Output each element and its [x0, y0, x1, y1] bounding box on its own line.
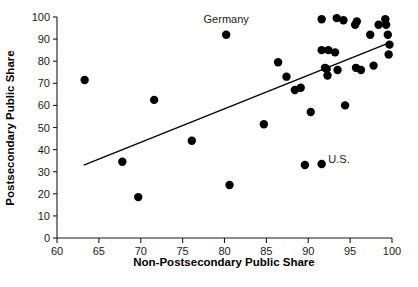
- data-point: [307, 108, 315, 116]
- annotation-label-germany: Germany: [204, 13, 250, 25]
- data-point: [150, 96, 158, 104]
- data-point: [80, 76, 88, 84]
- data-point: [297, 84, 305, 92]
- y-tick-label: 50: [38, 122, 50, 134]
- data-point: [385, 40, 393, 48]
- data-point: [274, 58, 282, 66]
- data-point: [374, 21, 382, 29]
- y-tick-label: 60: [38, 99, 50, 111]
- x-tick-label: 95: [344, 245, 356, 257]
- y-tick-label: 70: [38, 77, 50, 89]
- data-point: [134, 193, 142, 201]
- data-point: [188, 137, 196, 145]
- data-point: [369, 61, 377, 69]
- data-point: [333, 66, 341, 74]
- y-tick-label: 100: [32, 11, 50, 23]
- data-point: [382, 21, 390, 29]
- y-tick-label: 80: [38, 55, 50, 67]
- data-point: [260, 120, 268, 128]
- x-axis-title: Non-Postsecondary Public Share: [133, 256, 315, 268]
- data-point: [341, 101, 349, 109]
- y-tick-label: 90: [38, 33, 50, 45]
- x-tick-label: 65: [93, 245, 105, 257]
- y-tick-labels: 0102030405060708090100: [32, 11, 50, 244]
- annotation-label-u-s: U.S.: [328, 153, 349, 165]
- scatter-chart-figure: 0102030405060708090100 60657075808590951…: [0, 0, 418, 287]
- data-point: [339, 16, 347, 24]
- y-axis-title: Postsecondary Public Share: [4, 50, 16, 205]
- data-point: [118, 158, 126, 166]
- y-tick-label: 40: [38, 144, 50, 156]
- data-point: [282, 72, 290, 80]
- x-tick-label: 100: [383, 245, 401, 257]
- data-point: [357, 66, 365, 74]
- data-point: [331, 48, 339, 56]
- data-point: [225, 181, 233, 189]
- y-tick-label: 0: [44, 232, 50, 244]
- y-axis-group: 0102030405060708090100: [32, 11, 57, 244]
- data-point-germany: [222, 30, 230, 38]
- x-tick-label: 60: [51, 245, 63, 257]
- data-point: [323, 71, 331, 79]
- x-tick-marks: [57, 238, 392, 243]
- data-point: [384, 30, 392, 38]
- chart-canvas: 0102030405060708090100 60657075808590951…: [0, 0, 418, 287]
- data-point: [384, 50, 392, 58]
- data-points-group: [80, 14, 393, 201]
- y-tick-label: 20: [38, 188, 50, 200]
- data-point: [353, 17, 361, 25]
- x-axis-group: 6065707580859095100: [51, 238, 401, 257]
- y-tick-label: 10: [38, 210, 50, 222]
- y-tick-marks: [53, 17, 57, 238]
- data-point: [366, 30, 374, 38]
- y-tick-label: 30: [38, 166, 50, 178]
- data-point: [301, 161, 309, 169]
- data-point: [317, 15, 325, 23]
- data-point-u-s: [317, 160, 325, 168]
